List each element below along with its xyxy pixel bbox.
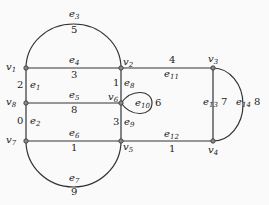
node-v3: [211, 66, 215, 70]
edge-weight-e3: 5: [71, 24, 77, 35]
edge-weight-e13: 7: [221, 96, 227, 107]
edge-weight-e11: 4: [169, 54, 175, 65]
edge-weight-e1: 2: [17, 79, 23, 90]
node-label-v8: v8: [6, 96, 17, 109]
node-label-v5: v5: [123, 141, 134, 154]
edge-label-e9: e9: [124, 116, 135, 129]
node-label-v7: v7: [6, 134, 17, 147]
edge-label-e5: e5: [69, 89, 80, 102]
node-label-v1: v1: [6, 61, 16, 74]
edge-label-e8: e8: [124, 77, 135, 90]
edge-weight-e7: 9: [71, 186, 77, 197]
node-label-v4: v4: [208, 144, 218, 157]
node-label-v6: v6: [108, 91, 119, 104]
edge-weight-e6: 1: [71, 142, 77, 153]
edge-label-e12: e12: [164, 128, 179, 141]
edge-weight-e9: 3: [113, 116, 119, 127]
edge-weight-e2: 0: [17, 115, 23, 126]
node-v7: [24, 139, 28, 143]
edge-label-e3: e3: [69, 8, 80, 21]
edge-label-e2: e2: [30, 115, 41, 128]
graph-diagram: v1 v2 v3 v4 v5 v6 v7 v8 e1 2 e2 0 e3 5 e…: [0, 0, 269, 205]
edge-weight-e10: 6: [155, 97, 161, 108]
edge-label-e14: e14: [236, 96, 251, 109]
node-v6: [119, 101, 123, 105]
node-v1: [24, 66, 28, 70]
edge-label-e7: e7: [69, 172, 80, 185]
edge-label-e11: e11: [164, 68, 179, 81]
edge-label-e10: e10: [135, 97, 150, 110]
node-label-v2: v2: [123, 56, 134, 69]
edge-weight-e5: 8: [71, 104, 77, 115]
edge-label-e4: e4: [69, 54, 79, 67]
edge-label-e6: e6: [69, 127, 80, 140]
node-v4: [211, 139, 215, 143]
edge-weight-e12: 1: [169, 143, 175, 154]
edge-label-e1: e1: [30, 79, 40, 92]
edge-weight-e4: 3: [71, 69, 77, 80]
edge-weight-e8: 1: [113, 77, 119, 88]
node-v8: [24, 101, 28, 105]
edge-label-e13: e13: [203, 96, 218, 109]
edge-weight-e14: 8: [254, 96, 260, 107]
node-label-v3: v3: [208, 53, 219, 66]
